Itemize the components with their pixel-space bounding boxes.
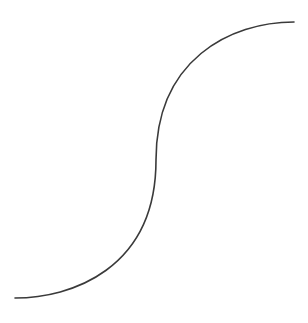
figure-canvas xyxy=(0,0,308,323)
s-curve-figure xyxy=(0,0,308,323)
s-curve-line xyxy=(15,22,294,298)
